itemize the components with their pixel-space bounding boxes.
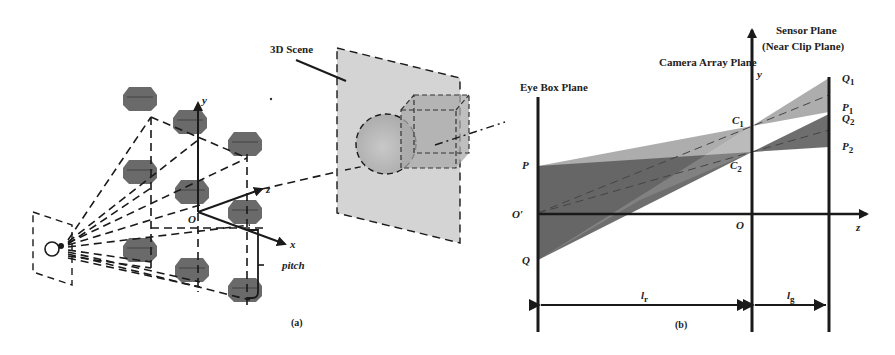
frustum-c2 (538, 114, 829, 260)
point-C2: C2 (730, 160, 742, 174)
axis-label-y-a: y (202, 95, 207, 106)
panel-a (33, 48, 505, 308)
origin-label-b: O (736, 220, 744, 231)
axis-label-z-a: z (266, 184, 270, 195)
camera-array-blocks (123, 87, 262, 302)
panel-b (538, 30, 867, 332)
view-rays (68, 117, 250, 300)
eye-box-plane-label: Eye Box Plane (520, 82, 588, 93)
sensor-plane-label-line2: (Near Clip Plane) (762, 41, 844, 52)
eye-box (33, 212, 72, 285)
axis-label-z-b: z (856, 222, 860, 233)
scene-label: 3D Scene (270, 44, 313, 55)
dimension-lr: lr (641, 290, 648, 304)
cube (401, 95, 469, 168)
optical-axis (262, 170, 345, 189)
camera-array-plane-label: Camera Array Plane (659, 57, 757, 68)
figure-canvas (0, 0, 895, 355)
point-C1: C1 (732, 115, 744, 129)
point-Q1: Q1 (842, 73, 854, 87)
axis-label-y-b: y (757, 69, 762, 80)
caption-b: (b) (675, 320, 687, 330)
origin-label-a: O (188, 214, 196, 225)
eye-icon (45, 242, 59, 256)
caption-a: (a) (291, 318, 303, 328)
point-P2: P2 (842, 141, 853, 155)
pitch-label: pitch (282, 260, 305, 271)
point-P: P (522, 160, 529, 171)
sensor-plane-label-line1: Sensor Plane (776, 25, 837, 36)
point-Q: Q (522, 255, 530, 266)
origin-prime-label: O′ (512, 209, 523, 220)
dimension-lg: lg (787, 290, 795, 304)
point-Q2: Q2 (842, 113, 854, 127)
axis-label-x-a: x (290, 239, 296, 250)
